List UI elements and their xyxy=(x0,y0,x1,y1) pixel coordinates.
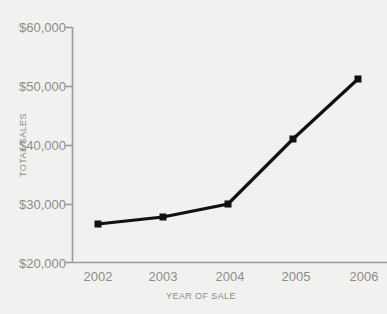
x-tick-label: 2004 xyxy=(200,269,260,284)
line-chart: TOTAL SALES $60,000 $50,000 $40,000 $30,… xyxy=(0,0,387,314)
data-point-marker xyxy=(290,136,297,143)
plot-area xyxy=(0,0,387,314)
x-tick-label: 2005 xyxy=(266,269,326,284)
data-point-marker xyxy=(355,76,362,83)
data-point-marker xyxy=(225,201,232,208)
data-point-marker xyxy=(160,214,167,221)
x-tick-label: 2006 xyxy=(334,269,387,284)
data-point-marker xyxy=(95,221,102,228)
x-tick-label: 2002 xyxy=(68,269,128,284)
x-tick-label: 2003 xyxy=(133,269,193,284)
x-axis-title: YEAR OF SALE xyxy=(72,291,330,301)
